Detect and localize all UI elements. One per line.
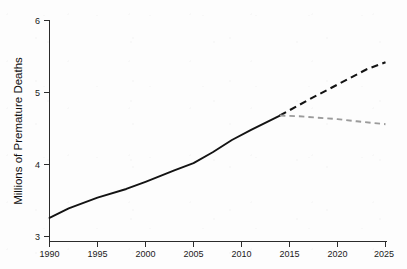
series-projection-low-line	[280, 116, 386, 125]
series-projection-high-line	[280, 62, 386, 115]
y-tick-label-5: 5	[35, 88, 40, 98]
x-tick-label-2025: 2025	[374, 249, 394, 259]
x-tick-marks	[50, 242, 386, 247]
x-tick-label-2005: 2005	[183, 249, 203, 259]
chart-container: 6 5 4 3 1990 1995 2000 2005 2010 2015 20…	[0, 0, 407, 269]
y-axis-title: Millions of Premature Deaths	[12, 57, 24, 205]
x-tick-label-1990: 1990	[39, 249, 59, 259]
y-tick-marks	[44, 21, 50, 237]
series-historical-line	[50, 116, 280, 218]
y-tick-label-4: 4	[35, 160, 40, 170]
x-tick-label-1995: 1995	[87, 249, 107, 259]
x-tick-label-2020: 2020	[327, 249, 347, 259]
line-chart: 6 5 4 3 1990 1995 2000 2005 2010 2015 20…	[0, 0, 407, 269]
x-tick-label-2000: 2000	[135, 249, 155, 259]
x-tick-label-2015: 2015	[279, 249, 299, 259]
y-tick-label-3: 3	[35, 232, 40, 242]
y-tick-labels: 6 5 4 3	[35, 16, 40, 242]
y-tick-label-6: 6	[35, 16, 40, 26]
x-tick-label-2010: 2010	[231, 249, 251, 259]
x-tick-labels: 1990 1995 2000 2005 2010 2015 2020 2025	[39, 249, 394, 259]
